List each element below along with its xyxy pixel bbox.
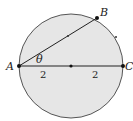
point-b <box>95 16 99 20</box>
center-point <box>69 64 72 67</box>
circle-diagram: A B C θ 2 2 <box>0 0 133 121</box>
angle-theta-label: θ <box>36 53 43 66</box>
segment-label-left: 2 <box>40 69 46 80</box>
segment-label-right: 2 <box>92 69 98 80</box>
label-a: A <box>5 60 14 73</box>
label-c: C <box>125 60 133 73</box>
point-a <box>17 64 21 68</box>
tick-mark-ab <box>67 35 69 37</box>
tick-mark-arc-bc <box>115 36 117 38</box>
label-b: B <box>99 6 108 19</box>
